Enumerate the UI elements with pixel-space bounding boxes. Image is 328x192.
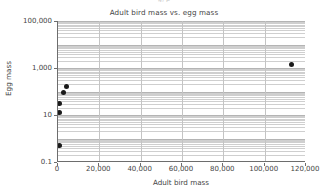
y-tick-label: 10 xyxy=(43,111,52,119)
plot-area xyxy=(57,21,305,162)
x-tick-label: 20,000 xyxy=(86,165,111,173)
x-axis-label: Adult bird mass xyxy=(57,178,305,187)
y-tick-mark xyxy=(54,115,57,116)
y-tick-mark xyxy=(54,68,57,69)
x-tick-label: 80,000 xyxy=(210,165,235,173)
y-tick-label: 100,000 xyxy=(23,17,52,25)
x-tick-label: 40,000 xyxy=(127,165,152,173)
data-point xyxy=(57,110,62,115)
y-axis-label: Egg mass xyxy=(4,49,13,109)
gridline-vertical xyxy=(223,21,224,161)
x-tick-label: 100,000 xyxy=(249,165,278,173)
y-tick-label: 0.1 xyxy=(41,158,52,166)
data-point xyxy=(64,84,69,89)
x-tick-label: 0 xyxy=(55,165,59,173)
x-tick-label: 120,000 xyxy=(291,165,320,173)
x-tick-label: 60,000 xyxy=(169,165,194,173)
data-point xyxy=(289,62,294,67)
gridline-vertical xyxy=(182,21,183,161)
cut-off-text-fragment: g, p xyxy=(0,0,328,2)
gridline-vertical xyxy=(141,21,142,161)
gridline-vertical xyxy=(99,21,100,161)
scatter-chart: g, p Adult bird mass vs. egg mass 0.1101… xyxy=(0,0,328,192)
y-tick-label: 1,000 xyxy=(32,64,52,72)
data-point xyxy=(61,90,66,95)
chart-title: Adult bird mass vs. egg mass xyxy=(0,8,328,17)
data-point xyxy=(57,143,62,148)
y-tick-mark xyxy=(54,21,57,22)
gridline-vertical xyxy=(265,21,266,161)
